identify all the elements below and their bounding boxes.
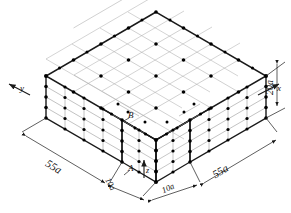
- axis-label-x: x: [277, 83, 281, 93]
- axis-label-z: z: [146, 166, 149, 175]
- dimension-label-height: 20a: [264, 80, 275, 95]
- notch-top-ledges: [101, 108, 211, 140]
- point-label-b: B: [128, 110, 134, 120]
- axis-label-y: y: [20, 83, 24, 93]
- figure-canvas: 55a 55a 20a 10a 10a y x z A B: [0, 0, 291, 213]
- point-label-a: A: [128, 163, 134, 173]
- isometric-mesh-figure: [0, 0, 291, 213]
- dimension-lines: [22, 62, 285, 200]
